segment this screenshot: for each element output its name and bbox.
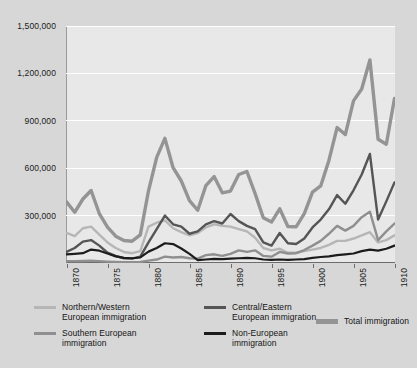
x-tick-label: 1870 [71, 268, 81, 287]
legend-item-southern[interactable]: Southern European immigration [34, 328, 184, 348]
legend-swatch-non-european [204, 332, 226, 335]
y-tick-label: 1,200,000 [17, 68, 56, 78]
legend-label-northern-western: Northern/Western European immigration [62, 302, 146, 322]
x-tick-label: 1885 [194, 268, 204, 287]
y-tick-label: 300,000 [25, 211, 56, 221]
legend-swatch-central-eastern [204, 306, 226, 309]
y-tick-label: 600,000 [25, 163, 56, 173]
x-tick [395, 264, 396, 268]
series-line-non-european-immigration [67, 243, 395, 260]
legend-swatch-southern [34, 332, 56, 335]
x-tick [149, 264, 150, 268]
x-tick-label: 1880 [153, 268, 163, 287]
legend-label-total: Total immigration [344, 316, 409, 326]
legend-label-southern: Southern European immigration [62, 328, 137, 348]
immigration-line-chart: 1,500,0001,200,000900,000600,000300,000 … [0, 0, 417, 368]
x-tick-label: 1895 [276, 268, 286, 287]
legend-label-non-european: Non-European immigration [232, 328, 288, 348]
x-tick-label: 1890 [235, 268, 245, 287]
x-tick-label: 1905 [358, 268, 368, 287]
x-axis: 187018751880188518901895190019051910 [66, 264, 395, 298]
chart-legend: Northern/Western European immigration Ce… [26, 302, 398, 358]
legend-item-northern-western[interactable]: Northern/Western European immigration [34, 302, 184, 322]
x-tick-label: 1900 [317, 268, 327, 287]
legend-item-non-european[interactable]: Non-European immigration [204, 328, 364, 348]
x-tick [272, 264, 273, 268]
x-tick [108, 264, 109, 268]
legend-swatch-total [316, 319, 338, 324]
x-tick [190, 264, 191, 268]
x-tick [231, 264, 232, 268]
x-tick [354, 264, 355, 268]
legend-item-total[interactable]: Total immigration [316, 316, 417, 326]
series-line-central-eastern-european-immigration [67, 154, 395, 259]
y-tick-label: 1,500,000 [17, 21, 56, 31]
legend-swatch-northern-western [34, 306, 56, 309]
x-tick-label: 1875 [112, 268, 122, 287]
x-tick [67, 264, 68, 268]
x-tick [313, 264, 314, 268]
plot-area [66, 26, 395, 263]
x-tick-label: 1910 [399, 268, 409, 287]
y-axis: 1,500,0001,200,000900,000600,000300,000 [0, 26, 62, 263]
series-lines [66, 26, 395, 263]
legend-label-central-eastern: Central/Eastern European immigration [232, 302, 316, 322]
y-tick-label: 900,000 [25, 116, 56, 126]
